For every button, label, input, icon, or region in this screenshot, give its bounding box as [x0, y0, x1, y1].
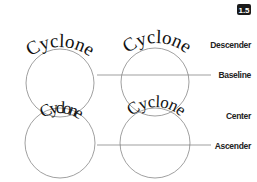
circle-bottom-right — [120, 108, 190, 178]
arc-text-center: Cyclone — [36, 98, 86, 123]
arc-text-baseline: Cyclone — [119, 26, 196, 57]
label-ascender: Ascender — [215, 141, 252, 151]
circle-bottom-left — [25, 108, 95, 178]
label-descender: Descender — [210, 40, 252, 50]
label-center: Center — [226, 111, 252, 121]
figure-number-badge: 1.5 — [237, 4, 251, 15]
badge-text: 1.5 — [238, 6, 250, 15]
text-on-path-diagram: 1.5 Cyclone Cyclone Cyclone Cyclone Desc… — [0, 0, 257, 182]
arc-text-descender: Cyclone — [22, 30, 99, 60]
label-baseline: Baseline — [218, 70, 251, 80]
